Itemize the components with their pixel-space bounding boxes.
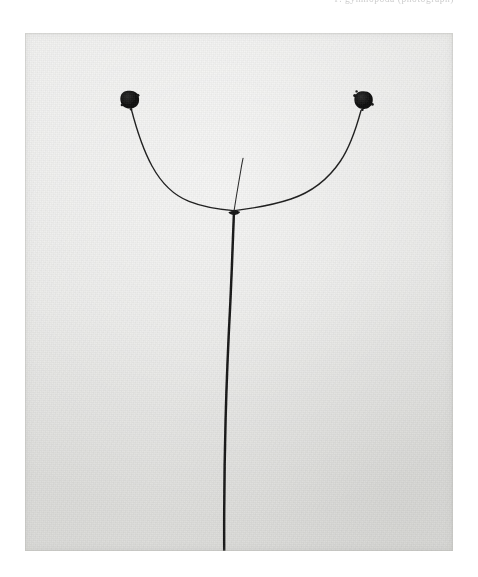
central-shoot xyxy=(234,158,243,211)
page-header-text: P. gymnopoda (photograph) xyxy=(334,0,454,4)
specimen-illustration xyxy=(25,33,453,551)
page-header: P. gymnopoda (photograph) xyxy=(0,0,478,9)
left-seed-head xyxy=(120,91,139,111)
right-seed-head xyxy=(353,90,374,111)
branch-node xyxy=(228,211,240,215)
right-branch xyxy=(235,111,361,211)
main-stem xyxy=(224,211,234,551)
left-branch xyxy=(131,110,233,211)
photographic-plate xyxy=(25,33,453,551)
